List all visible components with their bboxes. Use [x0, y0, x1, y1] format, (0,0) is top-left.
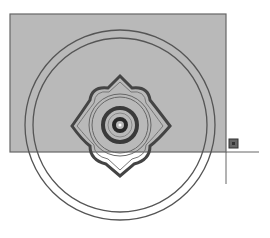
core-rings [103, 108, 137, 142]
crosshair-cursor [226, 152, 259, 184]
grip-center [232, 142, 235, 145]
cad-drawing [0, 0, 270, 238]
